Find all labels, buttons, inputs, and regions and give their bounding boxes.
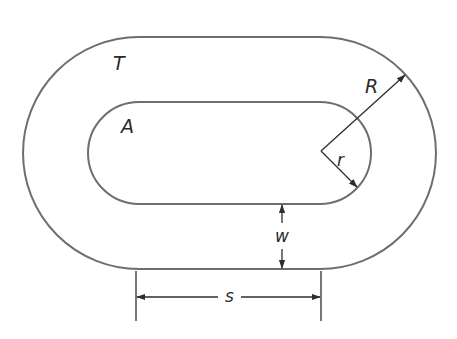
outer-track-boundary [23,37,436,269]
label-inner-area: A [119,115,134,137]
label-straight-length: s [225,286,234,306]
racetrack-diagram: T A R r w s [0,0,457,339]
label-inner-radius: r [337,150,345,170]
diagram-canvas: T A R r w s [0,0,457,339]
label-width: w [275,226,289,246]
label-track: T [113,52,126,74]
label-outer-radius: R [365,75,378,97]
outer-radius-line [321,75,405,151]
